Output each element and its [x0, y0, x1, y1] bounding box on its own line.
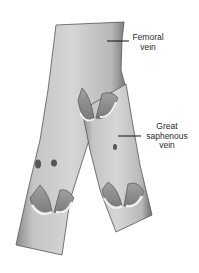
tributary-opening — [113, 144, 117, 150]
saphenous-label-line3: vein — [142, 141, 192, 151]
tributary-opening — [35, 160, 41, 169]
great-saphenous-vein-label: Great saphenous vein — [142, 122, 192, 151]
femoral-label-line2: vein — [128, 43, 168, 53]
great-saphenous-vein — [82, 84, 152, 232]
femoral-vein-label: Femoral vein — [128, 33, 168, 52]
tributary-opening — [51, 160, 57, 167]
